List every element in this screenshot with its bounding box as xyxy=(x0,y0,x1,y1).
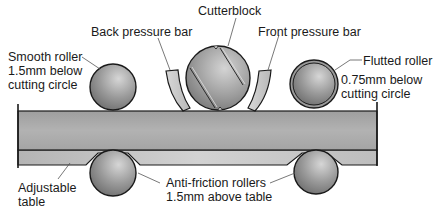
front-pressure-bar xyxy=(248,70,271,111)
flutted-roller xyxy=(290,60,338,108)
label-flutted-roller-detail-1: 0.75mm below xyxy=(341,73,423,87)
label-adjustable-table: Adjustable xyxy=(18,181,76,195)
anti-friction-roller-left xyxy=(90,150,136,196)
label-anti-friction-rollers: Anti-friction rollers xyxy=(166,176,266,190)
anti-friction-roller-right xyxy=(294,150,338,194)
label-cutterblock: Cutterblock xyxy=(198,4,262,18)
cutterblock xyxy=(186,46,250,110)
label-anti-friction-rollers-detail: 1.5mm above table xyxy=(166,190,272,204)
label-adjustable-table-2: table xyxy=(18,195,45,209)
workpiece-board xyxy=(18,111,377,150)
label-smooth-roller-detail-1: 1.5mm below xyxy=(8,64,83,78)
label-flutted-roller-detail-2: cutting circle xyxy=(341,87,411,101)
planer-thicknesser-diagram: Cutterblock Back pressure bar Front pres… xyxy=(0,0,437,219)
label-flutted-roller: Flutted roller xyxy=(363,54,432,68)
label-front-pressure-bar: Front pressure bar xyxy=(258,25,361,39)
smooth-roller xyxy=(90,64,136,110)
label-back-pressure-bar: Back pressure bar xyxy=(91,25,192,39)
label-smooth-roller: Smooth roller xyxy=(8,50,82,64)
label-smooth-roller-detail-2: cutting circle xyxy=(8,78,78,92)
